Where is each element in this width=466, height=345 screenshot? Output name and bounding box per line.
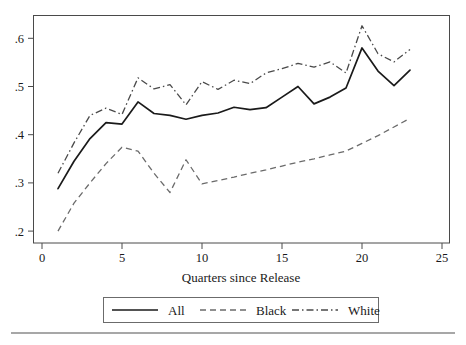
legend-label-black: Black: [256, 303, 287, 318]
y-tick-label: .2: [15, 225, 24, 239]
chart-background: [0, 0, 466, 345]
x-tick-label: 25: [436, 251, 449, 265]
chart-figure: .6 .5 .4 .3 .2 0 5 10 15 20 25 Quarters …: [0, 0, 466, 345]
x-tick-label: 10: [196, 251, 209, 265]
y-tick-label: .3: [15, 176, 24, 190]
x-tick-label: 0: [39, 251, 45, 265]
line-chart: .6 .5 .4 .3 .2 0 5 10 15 20 25 Quarters …: [0, 0, 466, 345]
legend-label-white: White: [348, 303, 380, 318]
x-tick-label: 20: [356, 251, 369, 265]
x-tick-label: 5: [119, 251, 125, 265]
y-tick-label: .4: [15, 128, 25, 142]
legend-label-all: All: [168, 303, 185, 318]
x-tick-label: 15: [276, 251, 289, 265]
chart-legend: All Black White: [104, 298, 380, 323]
x-axis-title: Quarters since Release: [182, 270, 301, 285]
y-tick-label: .5: [15, 80, 24, 94]
y-tick-label: .6: [15, 32, 24, 46]
